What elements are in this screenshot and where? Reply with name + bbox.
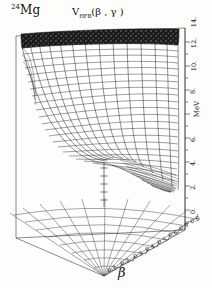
surface-body	[22, 44, 178, 163]
mesh-surface	[21, 29, 179, 192]
function-arguments: (β , γ )	[91, 6, 123, 17]
z-tick-14: 14.	[190, 17, 198, 27]
function-subscript: HFB	[79, 13, 91, 19]
beta-axis-label: β	[118, 266, 126, 279]
nuclide-label: 24Mg	[11, 4, 40, 16]
inner-wall-dense-lines	[118, 158, 178, 192]
function-label: VHFB(β , γ )	[72, 7, 124, 20]
minimum-drop-line	[101, 163, 108, 207]
energy-unit-label: MeV	[193, 101, 201, 117]
z-tick-12: 12.	[190, 38, 198, 48]
element-symbol: Mg	[20, 3, 40, 17]
figure-panel: 24Mg VHFB(β , γ ) β MeV 0. 2. 4. 6. 8. 1…	[0, 0, 212, 288]
z-tick-10: 10.	[190, 61, 198, 71]
z-tick-8: 8.	[189, 88, 197, 94]
z-tick-0: 0.	[189, 208, 197, 214]
surface-plot	[0, 0, 212, 288]
energy-axis-ticks	[185, 28, 190, 230]
z-tick-2: 2.	[189, 184, 197, 190]
z-tick-6: 6.	[189, 136, 197, 142]
mass-number: 24	[11, 3, 20, 11]
z-tick-4: 4.	[189, 160, 197, 166]
